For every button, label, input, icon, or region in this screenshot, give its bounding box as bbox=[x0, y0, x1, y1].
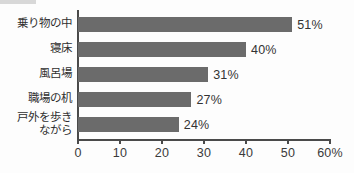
bar-value-label: 27% bbox=[196, 93, 222, 107]
category-label: 職場の机 bbox=[0, 92, 72, 105]
chart-page: 0102030405060% 乗り物の中51%寝床40%風呂場31%職場の机27… bbox=[0, 0, 354, 173]
x-tick-label-40: 40 bbox=[239, 146, 253, 160]
bar-row: 風呂場31% bbox=[0, 62, 354, 87]
category-label: 戸外を歩き ながら bbox=[0, 111, 72, 136]
bar-row: 乗り物の中51% bbox=[0, 12, 354, 37]
bar-value-label: 51% bbox=[297, 18, 323, 32]
bar bbox=[78, 17, 292, 32]
bar-row: 職場の机27% bbox=[0, 87, 354, 112]
x-tick-label-60: 60% bbox=[317, 146, 343, 160]
bar-row: 戸外を歩き ながら24% bbox=[0, 112, 354, 137]
x-tick-20 bbox=[161, 140, 162, 144]
bar bbox=[78, 117, 179, 132]
x-tick-label-30: 30 bbox=[197, 146, 211, 160]
x-tick-50 bbox=[287, 140, 288, 144]
bar-value-label: 31% bbox=[213, 68, 239, 82]
x-tick-label-20: 20 bbox=[155, 146, 169, 160]
x-tick-0 bbox=[77, 140, 78, 144]
category-label: 寝床 bbox=[0, 42, 72, 55]
category-label: 乗り物の中 bbox=[0, 17, 72, 30]
bar bbox=[78, 92, 191, 107]
bar-row: 寝床40% bbox=[0, 37, 354, 62]
bar-value-label: 40% bbox=[251, 43, 277, 57]
bar bbox=[78, 67, 208, 82]
bar bbox=[78, 42, 246, 57]
x-tick-60 bbox=[329, 140, 330, 144]
category-label: 風呂場 bbox=[0, 67, 72, 80]
x-tick-label-0: 0 bbox=[74, 146, 81, 160]
x-tick-40 bbox=[245, 140, 246, 144]
x-tick-10 bbox=[119, 140, 120, 144]
x-tick-label-50: 50 bbox=[281, 146, 295, 160]
x-tick-30 bbox=[203, 140, 204, 144]
horizontal-bar-chart: 0102030405060% 乗り物の中51%寝床40%風呂場31%職場の机27… bbox=[0, 0, 354, 173]
x-tick-label-10: 10 bbox=[113, 146, 127, 160]
bar-value-label: 24% bbox=[184, 118, 210, 132]
